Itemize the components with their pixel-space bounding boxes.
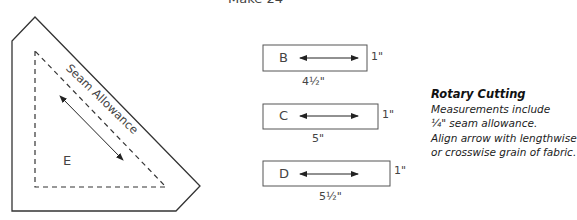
piece-d-height: 1" — [394, 164, 406, 177]
template-e-letter: E — [63, 153, 71, 168]
notes-line: ¼" seam allowance. — [431, 116, 561, 131]
template-e-cut-line — [12, 17, 200, 211]
piece-b-height: 1" — [371, 50, 383, 63]
piece-b-width: 4½" — [302, 75, 325, 88]
rotary-cutting-notes: Rotary Cutting Measurements include ¼" s… — [431, 87, 561, 160]
template-e — [12, 17, 200, 211]
piece-c-letter: C — [279, 108, 288, 123]
piece-d-letter: D — [279, 166, 289, 181]
template-e-seam-line — [35, 51, 166, 187]
notes-line: or crosswise grain of fabric. — [431, 145, 561, 160]
notes-line: Measurements include — [431, 102, 561, 117]
notes-title: Rotary Cutting — [431, 87, 561, 102]
notes-line: Align arrow with lengthwise — [431, 131, 561, 146]
piece-c-height: 1" — [382, 108, 394, 121]
piece-c-width: 5" — [312, 132, 324, 145]
piece-d-width: 5½" — [319, 190, 342, 203]
piece-b-letter: B — [279, 50, 288, 65]
